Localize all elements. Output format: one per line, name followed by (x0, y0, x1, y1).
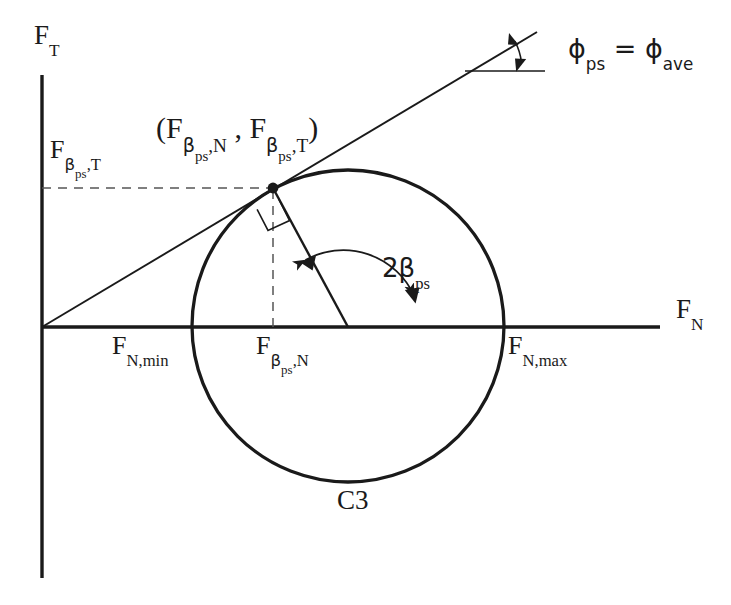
tangent-point-dot (268, 183, 279, 194)
phi-arc-head-top (508, 33, 519, 45)
axis-label-fn: FN (676, 296, 704, 323)
label-f-n-min: FN,min (112, 333, 169, 359)
diagram-canvas: FT FN (Fβps,N , Fβps,T) Fβps,T FN,min Fβ… (0, 0, 731, 605)
label-f-beta-ps-t: Fβps,T (50, 137, 101, 165)
label-circle-c3: C3 (337, 487, 369, 514)
tangent-line-from-origin (42, 32, 537, 327)
coordinate-point-label: (Fβps,N , Fβps,T) (156, 113, 318, 145)
label-angle-phi-ps: ϕps = ϕave (568, 35, 693, 62)
label-angle-two-beta-ps: 2βps (382, 255, 430, 282)
axis-label-ft: FT (34, 22, 60, 49)
phi-arc-head-bottom (515, 58, 526, 71)
label-f-n-max: FN,max (508, 333, 567, 359)
label-f-beta-ps-n: Fβps,N (256, 333, 309, 361)
